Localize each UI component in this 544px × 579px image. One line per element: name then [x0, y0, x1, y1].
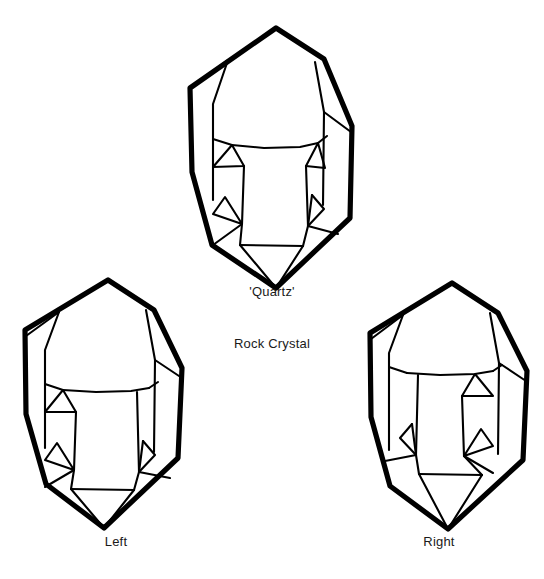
caption-rock-crystal: Rock Crystal [0, 336, 544, 352]
caption-left: Left [0, 534, 232, 550]
crystal-top-base-edge [240, 245, 303, 246]
caption-quartz: 'Quartz' [0, 284, 544, 300]
caption-right: Right [374, 534, 504, 550]
crystal-left-base-edge [71, 489, 134, 490]
crystal-right-base-edge [419, 474, 482, 475]
